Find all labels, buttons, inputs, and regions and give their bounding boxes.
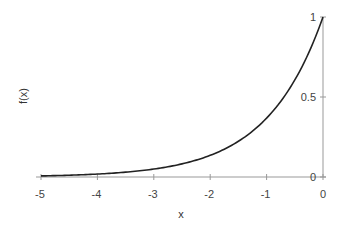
y-ticks: 00.51 (301, 11, 326, 183)
chart: -5-4-3-2-10 00.51 x f(x) (0, 0, 340, 232)
x-tick-label: -1 (261, 188, 271, 200)
y-tick-label: 0.5 (301, 91, 316, 103)
series-line (41, 17, 323, 176)
y-tick-label: 0 (310, 171, 316, 183)
series (41, 17, 323, 176)
x-axis-title: x (178, 208, 184, 220)
y-tick-label: 1 (310, 11, 316, 23)
x-tick-label: -3 (148, 188, 158, 200)
y-axis-title: f(x) (17, 88, 29, 104)
x-tick-label: -5 (35, 188, 45, 200)
x-tick-label: -4 (92, 188, 102, 200)
x-tick-label: -2 (204, 188, 214, 200)
x-ticks: -5-4-3-2-10 (35, 174, 326, 200)
x-tick-label: 0 (320, 188, 326, 200)
